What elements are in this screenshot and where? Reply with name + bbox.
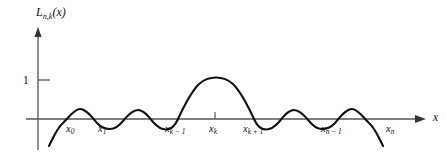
node-label-xn-minus-1: xn − 1 [321, 124, 342, 135]
node-label-xk-plus-1-base: x [243, 123, 248, 134]
node-label-xk-minus-1: xk − 1 [165, 124, 185, 135]
x-axis-label: x [433, 112, 438, 124]
node-label-x0: x0 [66, 124, 74, 135]
node-label-xn-minus-1-base: x [321, 123, 326, 134]
y-axis [34, 27, 41, 150]
node-label-xk-base: x [209, 123, 214, 134]
node-label-x0-subscript: 0 [71, 127, 75, 136]
node-label-x0-base: x [66, 123, 71, 134]
node-label-xn-subscript: n [391, 127, 395, 136]
y-axis-label-base: L [36, 5, 43, 19]
y-axis-label: Ln,k(x) [36, 6, 66, 18]
node-label-xn: xn [386, 124, 394, 135]
node-label-xk-plus-1-subscript: k + 1 [248, 127, 264, 136]
node-label-xn-base: x [386, 123, 391, 134]
y-axis-arrowhead [34, 27, 41, 37]
node-label-xk: xk [209, 124, 217, 135]
node-label-xk-minus-1-base: x [165, 123, 170, 134]
node-label-xk-minus-1-subscript: k − 1 [170, 127, 186, 136]
node-label-xk-subscript: k [214, 127, 217, 136]
node-label-x1-subscript: 1 [103, 127, 107, 136]
x-axis-arrowhead [415, 115, 426, 123]
y-axis-label-argument: (x) [52, 5, 65, 19]
y-tick-label-one: 1 [23, 75, 29, 87]
node-label-x1: x1 [98, 124, 106, 135]
node-label-xk-plus-1: xk + 1 [243, 124, 263, 135]
y-axis-label-subscript: n,k [43, 12, 53, 21]
node-label-x1-base: x [98, 123, 103, 134]
lagrange-basis-figure: Ln,k(x) 1 x x0 x1 xk − 1 xk xk + 1 xn − … [0, 0, 447, 157]
node-label-xn-minus-1-subscript: n − 1 [326, 127, 342, 136]
